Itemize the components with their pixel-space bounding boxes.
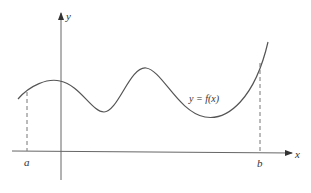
interval-left-label: a	[24, 156, 30, 168]
x-axis-label: x	[294, 148, 300, 160]
x-axis	[12, 151, 292, 153]
function-graph: y x y = f(x) a b	[0, 0, 311, 193]
y-axis-label: y	[65, 10, 71, 22]
function-curve	[18, 42, 268, 117]
curve-label: y = f(x)	[188, 93, 220, 105]
interval-right-label: b	[257, 157, 263, 169]
